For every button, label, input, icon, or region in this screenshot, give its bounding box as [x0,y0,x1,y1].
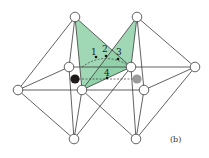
node-center [126,62,136,72]
grey-atom [132,74,141,83]
site-point-3 [117,58,120,61]
site-label-1: 1 [91,47,97,57]
node-lower-left [77,85,87,95]
octahedra-diagram: 1 2 3 4 (b) [0,0,209,158]
site-label-2: 2 [102,44,108,54]
black-atom [70,74,79,83]
node-lower-right [139,85,149,95]
site-label-4: 4 [104,68,110,78]
node-top-right [132,12,142,22]
node-bottom-left [69,134,79,144]
site-label-3: 3 [116,47,122,57]
node-top-left [70,12,80,22]
node-bottom-right [131,134,141,144]
node-mid-left [64,62,74,72]
node-left [13,85,23,95]
node-right [190,62,200,72]
site-point-2 [105,55,108,58]
panel-label: (b) [170,135,181,144]
